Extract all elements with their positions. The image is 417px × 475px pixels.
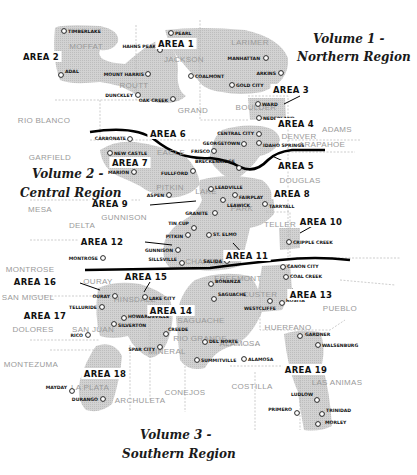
town-label: MARION	[108, 170, 129, 175]
town-label: TARRYALL	[269, 204, 295, 209]
town-marker[interactable]: OURAY	[92, 294, 117, 299]
town-circle-icon	[186, 233, 191, 238]
town-label: MOUNT HARRIS	[104, 72, 144, 77]
area-9-label[interactable]: AREA 9	[92, 199, 128, 209]
area-12-label[interactable]: AREA 12	[81, 237, 123, 247]
town-marker[interactable]: SUMMITVILLE	[195, 358, 237, 363]
county-label: ROUTT	[119, 81, 148, 90]
town-label: ALAMOSA	[248, 357, 274, 362]
area-2-label[interactable]: AREA 2	[23, 52, 59, 62]
area-14-label[interactable]: AREA 14	[150, 306, 192, 316]
town-marker[interactable]: ASPEN	[147, 193, 172, 198]
area-3-label[interactable]: AREA 3	[273, 85, 309, 95]
town-label: MORLEY	[325, 420, 347, 425]
town-label: COAL CREEK	[290, 274, 322, 279]
area-15-label[interactable]: AREA 15	[125, 272, 167, 282]
town-label: OAK CREEK	[139, 98, 169, 103]
town-circle-icon	[158, 345, 163, 350]
town-label: GRANITE	[185, 211, 208, 216]
town-label: PITKIN	[166, 234, 183, 239]
town-marker[interactable]: MONTROSE	[69, 256, 106, 261]
v2-subtitle: Central Region	[20, 186, 122, 200]
area-17-label[interactable]: AREA 17	[24, 311, 66, 321]
town-marker[interactable]: TIMBERLAKE	[62, 29, 101, 34]
county-label: MONTROSE	[6, 265, 55, 274]
town-circle-icon	[212, 297, 217, 302]
town-marker[interactable]: PRIMERO	[268, 407, 299, 415]
town-circle-icon	[316, 422, 321, 427]
town-marker[interactable]: FRISCO	[191, 149, 216, 154]
area-19-label[interactable]: AREA 19	[285, 365, 327, 375]
town-circle-icon	[112, 322, 117, 327]
town-circle-icon	[189, 74, 194, 79]
town-circle-icon	[320, 412, 325, 417]
town-circle-icon	[263, 202, 268, 207]
town-marker[interactable]: GEORGETOWN	[203, 141, 247, 146]
town-circle-icon	[257, 132, 262, 137]
town-circle-icon	[180, 261, 185, 266]
county-label: ARCHULETA	[115, 396, 166, 405]
town-label: TIMBERLAKE	[68, 29, 101, 34]
town-circle-icon	[268, 299, 273, 304]
town-circle-icon	[169, 31, 174, 36]
town-circle-icon	[164, 332, 169, 337]
county-label: LAS ANIMAS	[312, 378, 363, 387]
town-label: PEARL	[175, 31, 192, 36]
town-marker[interactable]: ALAMOSA	[242, 357, 274, 362]
town-circle-icon	[143, 295, 148, 300]
county-label: HUERFANO	[265, 323, 312, 332]
town-marker[interactable]: ARKINS	[256, 71, 283, 76]
area-1-label[interactable]: AREA 1	[158, 39, 194, 49]
town-label: DEL NORTE	[209, 339, 238, 344]
town-marker[interactable]: CANON CITY	[281, 264, 320, 269]
town-marker[interactable]: MOUNT HARRIS	[104, 72, 151, 77]
county-label: DOLORES	[12, 325, 53, 334]
town-circle-icon	[86, 333, 91, 338]
town-label: TIN CUP	[168, 221, 189, 226]
county-label: LARIMER	[231, 38, 269, 47]
town-marker[interactable]: CARBONATE	[95, 136, 133, 141]
town-label: SALIDA	[203, 259, 222, 264]
town-label: MAYDAY	[46, 385, 68, 390]
area-8-label[interactable]: AREA 8	[274, 189, 310, 199]
county-label: COSTILLA	[231, 382, 272, 391]
town-circle-icon	[209, 282, 214, 287]
town-label: ARKINS	[256, 71, 276, 76]
town-marker[interactable]: COAL CREEK	[284, 274, 323, 279]
town-marker[interactable]: WARD	[256, 102, 278, 107]
area-7-label[interactable]: AREA 7	[112, 158, 148, 168]
town-circle-icon	[59, 73, 64, 78]
county-label: TELLER	[264, 220, 296, 229]
town-marker[interactable]: NEW CASTLE	[108, 151, 147, 156]
town-label: FULLFORD	[161, 171, 188, 176]
area-5-label[interactable]: AREA 5	[278, 161, 314, 171]
area-11-label[interactable]: AREA 11	[226, 251, 268, 261]
area-6-label[interactable]: AREA 6	[150, 129, 186, 139]
town-circle-icon	[62, 29, 67, 34]
town-circle-icon	[122, 316, 127, 321]
town-marker[interactable]: CRIPPLE CREEK	[287, 240, 334, 245]
town-circle-icon	[70, 389, 75, 394]
town-circle-icon	[213, 211, 218, 216]
area-18-label[interactable]: AREA 18	[84, 369, 126, 379]
area-16-label[interactable]: AREA 16	[14, 277, 56, 287]
area-10-region	[279, 228, 300, 250]
county-label: SAGUACHE	[177, 316, 224, 325]
town-label: DURANGO	[72, 397, 98, 402]
town-circle-icon	[242, 357, 247, 362]
town-label: DUNCKLEY	[105, 93, 133, 98]
town-marker[interactable]: PEARL	[169, 31, 192, 36]
town-label: LEAWICK	[227, 203, 251, 208]
town-label: RICO	[70, 333, 83, 338]
area-4-label[interactable]: AREA 4	[278, 119, 314, 129]
county-label: PUEBLO	[323, 304, 357, 313]
county-label: SAN MIGUEL	[2, 293, 55, 302]
area-13-label[interactable]: AREA 13	[290, 290, 332, 300]
county-label: GUNNISON	[101, 213, 147, 222]
area-10-label[interactable]: AREA 10	[300, 217, 342, 227]
town-marker[interactable]: WALSENBURG	[316, 343, 359, 348]
town-marker[interactable]: RICO	[70, 333, 90, 338]
county-label: CONEJOS	[165, 388, 206, 397]
town-marker[interactable]: COALMONT	[189, 74, 225, 79]
county-label: MESA	[28, 205, 52, 214]
